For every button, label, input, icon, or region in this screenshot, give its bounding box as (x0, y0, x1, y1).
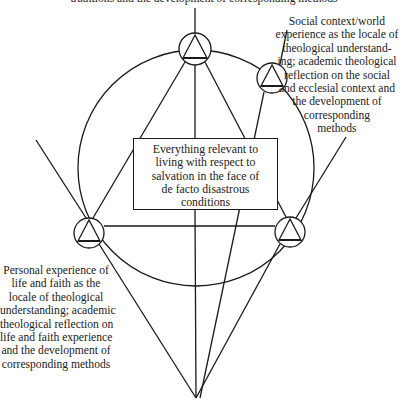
box-line: living with respect to (134, 156, 277, 169)
line-box-to-apex (195, 210, 196, 398)
personal-experience-label: Personal experience of life and faith as… (0, 264, 112, 371)
label-line: reflection on the social (266, 69, 408, 82)
label-line: locale of theological (0, 291, 112, 304)
label-line: experience as the locale of (266, 28, 408, 41)
label-line: life and faith as the (0, 277, 112, 290)
social-context-label: Social context/world experience as the l… (266, 15, 408, 136)
label-line: corresponding methods (0, 358, 112, 371)
top-label-line: traditions and the development of corres… (0, 0, 408, 5)
label-line: methods (266, 122, 408, 135)
label-line: Personal experience of (0, 264, 112, 277)
label-line: theological understand- (266, 42, 408, 55)
label-line: Social context/world (266, 15, 408, 28)
label-line: ing; academic theological (266, 55, 408, 68)
line-left-to-apex (99, 244, 196, 398)
label-line: the development of (266, 95, 408, 108)
label-line: corresponding (266, 109, 408, 122)
label-line: understanding; academic (0, 304, 112, 317)
box-line: de facto disastrous (134, 183, 277, 196)
line-right-outer (296, 137, 346, 218)
box-line: salvation in the face of (134, 170, 277, 183)
box-line: Everything relevant to (134, 143, 277, 156)
node-left-icon (74, 218, 104, 248)
label-line: life and faith experience (0, 331, 112, 344)
box-line: conditions (134, 196, 277, 209)
line-right-to-apex (196, 244, 280, 398)
node-right-icon (275, 217, 305, 247)
label-line: theological reflection on (0, 318, 112, 331)
label-line: and ecclesial context and (266, 82, 408, 95)
node-top-icon (179, 33, 211, 65)
top-label: traditions and the development of corres… (0, 0, 408, 5)
label-line: and the development of (0, 344, 112, 357)
center-concept-box: Everything relevant to living with respe… (133, 138, 278, 210)
